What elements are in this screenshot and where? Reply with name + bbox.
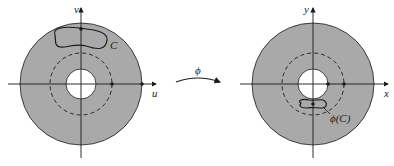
right-annulus: y x ϕ(C) — [240, 3, 389, 158]
left-annulus: v u C — [8, 3, 158, 158]
v-axis-label: v — [74, 3, 79, 15]
curve-c-label: C — [110, 39, 118, 51]
mapping-arrow: ϕ — [176, 64, 220, 82]
diagram-canvas: v u C ϕ y x ϕ(C) — [0, 0, 394, 166]
x-axis-label: x — [383, 87, 389, 99]
y-axis-label: y — [303, 3, 309, 15]
u-axis-label: u — [152, 87, 158, 99]
curve-phi-c-label: ϕ(C) — [330, 112, 351, 125]
phi-label: ϕ — [195, 64, 201, 76]
